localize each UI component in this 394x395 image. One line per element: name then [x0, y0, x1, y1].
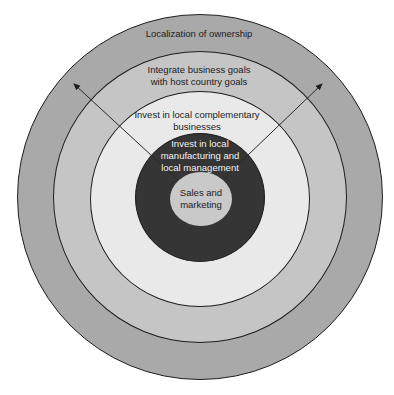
- label-localization-of-ownership: Localization of ownership: [146, 28, 253, 40]
- label-integrate-business-goals: Integrate business goals with host count…: [148, 64, 251, 88]
- label-sales-and-marketing: Sales and marketing: [180, 187, 222, 211]
- concentric-strategy-diagram: Localization of ownership Integrate busi…: [0, 0, 394, 395]
- label-invest-manufacturing-management: Invest in local manufacturing and local …: [161, 138, 240, 174]
- label-invest-complementary-businesses: Invest in local complementary businesses: [134, 109, 259, 133]
